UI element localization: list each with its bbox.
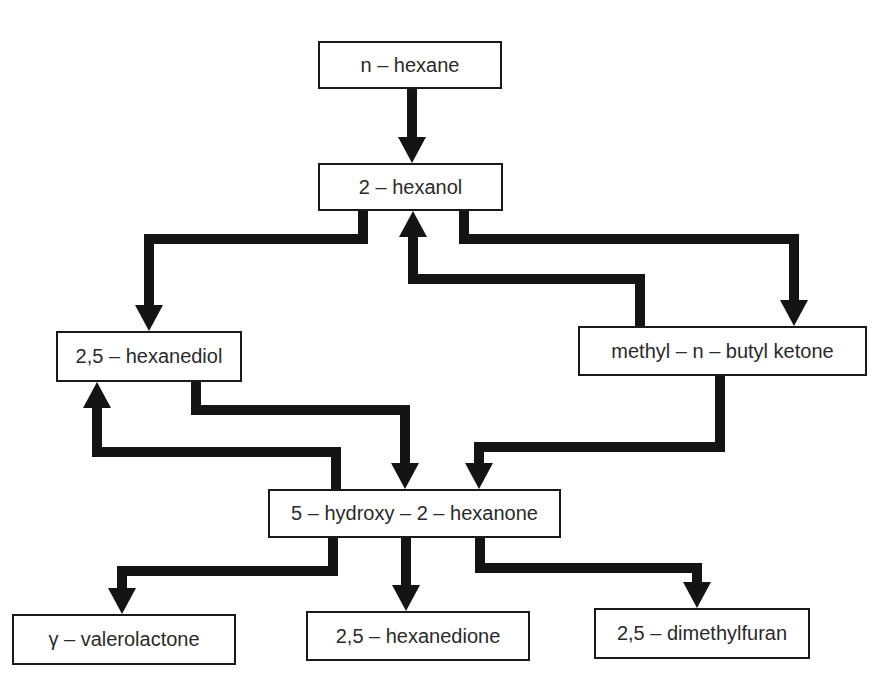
arrowhead-icon — [780, 300, 808, 326]
node-5-hydroxy-2-hexanone: 5 – hydroxy – 2 – hexanone — [268, 489, 561, 538]
arrowhead-icon — [108, 588, 136, 614]
arrow-5-hydroxy-2-hexanone-to-gamma-valerolactone — [108, 538, 333, 614]
node-2-5-hexanedione: 2,5 – hexanedione — [306, 611, 530, 661]
arrow-methyl-n-butyl-ketone-to-5-hydroxy-2-hexanone — [465, 376, 720, 489]
node-label: 2,5 – dimethylfuran — [617, 622, 787, 645]
node-label: n – hexane — [361, 54, 460, 77]
arrowhead-icon — [465, 463, 493, 489]
node-label: 2 – hexanol — [359, 176, 462, 199]
arrow-5-hydroxy-2-hexanone-to-2-5-hexanedione — [392, 538, 420, 611]
arrow-2-5-hexanediol-to-5-hydroxy-2-hexanone — [196, 382, 419, 489]
node-n-hexane: n – hexane — [318, 41, 502, 89]
arrow-methyl-n-butyl-ketone-to-2-hexanol — [399, 211, 640, 326]
node-methyl-n-butyl-ketone: methyl – n – butyl ketone — [578, 326, 867, 376]
node-2-5-hexanediol: 2,5 – hexanediol — [56, 331, 242, 382]
node-label: methyl – n – butyl ketone — [611, 340, 833, 363]
node-label: γ – valerolactone — [48, 628, 199, 651]
node-label: 5 – hydroxy – 2 – hexanone — [291, 502, 538, 525]
arrow-n-hexane-to-2-hexanol — [398, 89, 426, 163]
node-gamma-valerolactone: γ – valerolactone — [12, 614, 236, 665]
arrow-2-hexanol-to-2-5-hexanediol — [135, 211, 363, 331]
arrow-5-hydroxy-2-hexanone-to-2-5-dimethylfuran — [480, 538, 711, 608]
arrow-5-hydroxy-2-hexanone-to-2-5-hexanediol — [83, 382, 336, 489]
node-2-hexanol: 2 – hexanol — [318, 163, 503, 211]
node-label: 2,5 – hexanedione — [336, 625, 501, 648]
arrowhead-icon — [391, 463, 419, 489]
node-label: 2,5 – hexanediol — [76, 345, 223, 368]
node-2-5-dimethylfuran: 2,5 – dimethylfuran — [594, 608, 810, 659]
arrowhead-icon — [398, 137, 426, 163]
arrowhead-icon — [83, 382, 111, 408]
arrowhead-icon — [392, 585, 420, 611]
arrowhead-icon — [399, 211, 427, 237]
metabolic-pathway-diagram: n – hexane 2 – hexanol 2,5 – hexanediol … — [0, 0, 882, 690]
arrowhead-icon — [683, 582, 711, 608]
arrowhead-icon — [135, 305, 163, 331]
